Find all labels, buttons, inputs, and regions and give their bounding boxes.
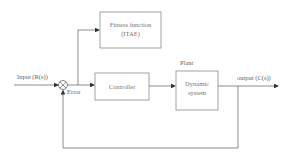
- plant-line2: system: [176, 89, 218, 98]
- fitness-function-line1: Fitness function: [100, 21, 161, 30]
- output-label: output (C(s)): [237, 75, 271, 82]
- plant-title: Plant: [180, 60, 193, 67]
- error-label: Error: [67, 89, 81, 96]
- controller-label: Controller: [95, 83, 149, 92]
- error-to-fitness-line: [78, 30, 99, 85]
- fitness-function-label: Fitness function (ITAE): [100, 21, 161, 39]
- plant-line1: Dynamic: [176, 80, 218, 89]
- fitness-function-line2: (ITAE): [100, 30, 161, 39]
- input-label: Input (R(s)): [17, 74, 48, 81]
- plant-label: Dynamic system: [176, 80, 218, 98]
